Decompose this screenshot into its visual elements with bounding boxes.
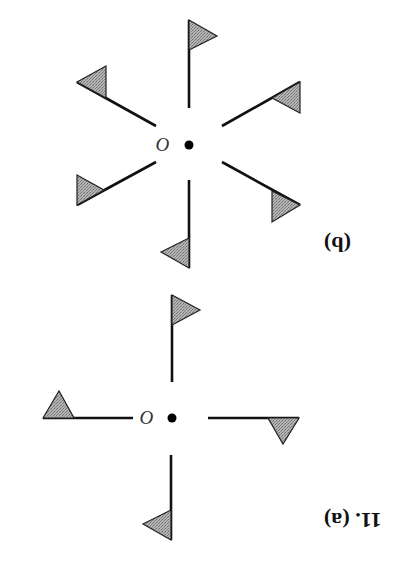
panel-a-arm-left <box>43 391 133 418</box>
panel-a-arm-right <box>208 418 299 444</box>
flag-triangle-icon <box>272 82 300 113</box>
panel-b-arm-lower-right <box>222 162 300 222</box>
panel-b-caption: (b) <box>324 233 351 255</box>
flag-triangle-icon <box>143 510 171 540</box>
panel-b-arm-lower-left <box>77 162 156 205</box>
panel-b-arm-upper-left <box>77 66 156 126</box>
panel-a-center-point <box>168 414 177 423</box>
origin-label-a: O <box>140 408 154 427</box>
flag-triangle-icon <box>272 191 300 222</box>
flag-triangle-icon <box>77 175 104 205</box>
flag-triangle-icon <box>77 66 106 98</box>
panel-b-arm-up <box>189 20 217 108</box>
diagram-canvas <box>0 0 409 561</box>
panel-a-four-flag-pinwheel <box>43 295 299 540</box>
origin-label-b: O <box>156 135 170 154</box>
flag-triangle-icon <box>189 20 217 50</box>
flag-triangle-icon <box>43 391 74 418</box>
panel-b-six-flag-pinwheel <box>77 20 300 268</box>
panel-a-arm-down <box>143 455 171 540</box>
panel-b-arm-down <box>161 180 189 268</box>
panel-a-arm-up <box>172 295 200 382</box>
flag-triangle-icon <box>268 418 299 444</box>
flag-triangle-icon <box>161 238 189 268</box>
flag-triangle-icon <box>172 295 200 325</box>
panel-a-caption: 11. (a) <box>324 509 381 531</box>
panel-b-arm-upper-right <box>222 82 300 126</box>
panel-b-center-point <box>185 141 194 150</box>
